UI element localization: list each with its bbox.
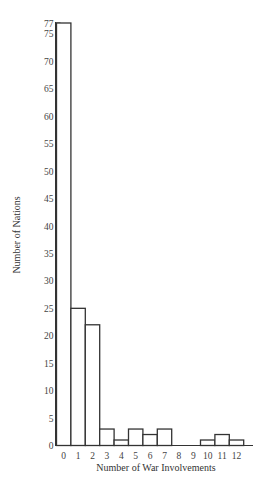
y-tick-label: 70 bbox=[44, 57, 54, 67]
bar bbox=[129, 429, 143, 445]
bar bbox=[100, 429, 114, 445]
y-tick-label: 65 bbox=[44, 84, 54, 94]
x-tick-label: 6 bbox=[148, 451, 153, 461]
y-tick-label: 20 bbox=[44, 331, 54, 341]
x-axis-title: Number of War Involvements bbox=[96, 462, 215, 473]
y-tick-label: 0 bbox=[49, 441, 54, 451]
bars bbox=[57, 23, 244, 446]
y-tick-label: 45 bbox=[44, 194, 54, 204]
bar bbox=[201, 440, 215, 445]
x-tick-label: 9 bbox=[191, 451, 196, 461]
y-axis-title: Number of Nations bbox=[11, 196, 22, 273]
histogram-chart: 05101520253035404550556065707577 0123456… bbox=[0, 0, 265, 486]
x-tick-label: 3 bbox=[105, 451, 110, 461]
x-tick-label: 4 bbox=[119, 451, 124, 461]
x-tick-label: 0 bbox=[61, 451, 66, 461]
y-tick-label: 60 bbox=[44, 112, 54, 122]
y-tick-label: 50 bbox=[44, 167, 54, 177]
x-tick-label: 8 bbox=[177, 451, 182, 461]
y-tick-label: 10 bbox=[44, 386, 54, 396]
x-axis-tick-labels: 0123456789101112 bbox=[61, 451, 241, 461]
x-tick-label: 7 bbox=[162, 451, 167, 461]
y-tick-label: 15 bbox=[44, 359, 54, 369]
x-tick-label: 12 bbox=[232, 451, 242, 461]
x-tick-label: 2 bbox=[90, 451, 95, 461]
x-tick-label: 11 bbox=[218, 451, 227, 461]
x-tick-label: 5 bbox=[133, 451, 138, 461]
y-tick-label: 5 bbox=[49, 414, 54, 424]
bar bbox=[114, 440, 128, 445]
bar bbox=[143, 435, 157, 446]
x-tick-label: 1 bbox=[76, 451, 81, 461]
y-tick-label: 77 bbox=[44, 19, 54, 29]
bar bbox=[229, 440, 243, 445]
bar bbox=[57, 23, 71, 446]
bar bbox=[157, 429, 171, 445]
bar bbox=[215, 435, 229, 446]
y-tick-label: 55 bbox=[44, 139, 54, 149]
x-tick-label: 10 bbox=[203, 451, 213, 461]
bar bbox=[85, 325, 99, 446]
y-tick-label: 40 bbox=[44, 222, 54, 232]
y-tick-label: 35 bbox=[44, 249, 54, 259]
bar bbox=[71, 308, 85, 445]
y-tick-label: 30 bbox=[44, 276, 54, 286]
y-tick-label: 25 bbox=[44, 304, 54, 314]
y-tick-label: 75 bbox=[44, 29, 54, 39]
